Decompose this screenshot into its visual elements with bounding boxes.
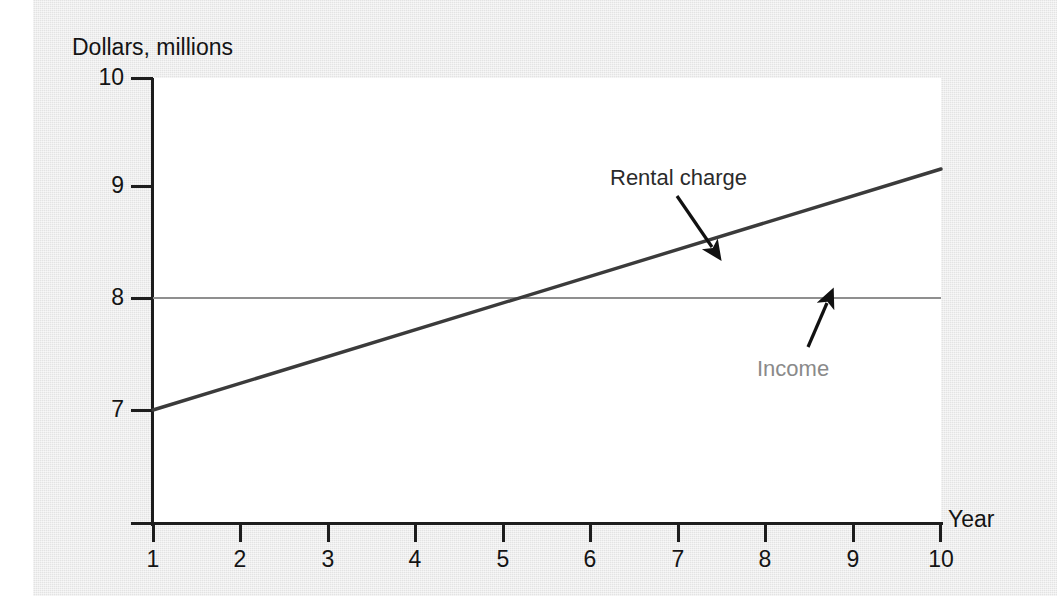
- x-tick-4: [414, 525, 417, 542]
- y-tick-label-9: 9: [84, 174, 124, 197]
- x-tick-label-4: 4: [385, 548, 445, 571]
- y-tick-label-8: 8: [84, 286, 124, 309]
- y-tick-7: [131, 409, 153, 412]
- x-tick-1: [152, 525, 155, 542]
- x-axis-title: Year: [948, 508, 994, 531]
- y-axis-title: Dollars, millions: [72, 36, 233, 59]
- x-tick-label-10: 10: [911, 548, 971, 571]
- x-tick-5: [502, 525, 505, 542]
- x-tick-7: [677, 525, 680, 542]
- x-tick-9: [852, 525, 855, 542]
- x-tick-label-9: 9: [823, 548, 883, 571]
- y-tick-9: [131, 185, 153, 188]
- x-tick-label-2: 2: [210, 548, 270, 571]
- annotation-income: Income: [757, 358, 829, 380]
- x-tick-2: [239, 525, 242, 542]
- x-tick-label-7: 7: [648, 548, 708, 571]
- y-axis-line: [151, 78, 154, 526]
- plot-area: [153, 78, 941, 524]
- x-tick-label-5: 5: [473, 548, 533, 571]
- x-tick-label-8: 8: [735, 548, 795, 571]
- x-tick-6: [589, 525, 592, 542]
- chart-figure: 10 9 8 7 1 2 3 4 5 6 7 8 9 10 Dollars, m…: [0, 0, 1057, 610]
- annotation-rental-charge: Rental charge: [610, 167, 747, 189]
- x-tick-3: [327, 525, 330, 542]
- y-tick-label-7: 7: [84, 398, 124, 421]
- x-tick-label-1: 1: [123, 548, 183, 571]
- x-axis-line: [131, 522, 943, 525]
- x-tick-label-3: 3: [298, 548, 358, 571]
- x-tick-8: [764, 525, 767, 542]
- x-tick-10: [939, 525, 942, 542]
- y-tick-label-10: 10: [84, 66, 124, 89]
- y-tick-8: [131, 297, 153, 300]
- x-tick-label-6: 6: [560, 548, 620, 571]
- y-tick-10: [131, 77, 153, 80]
